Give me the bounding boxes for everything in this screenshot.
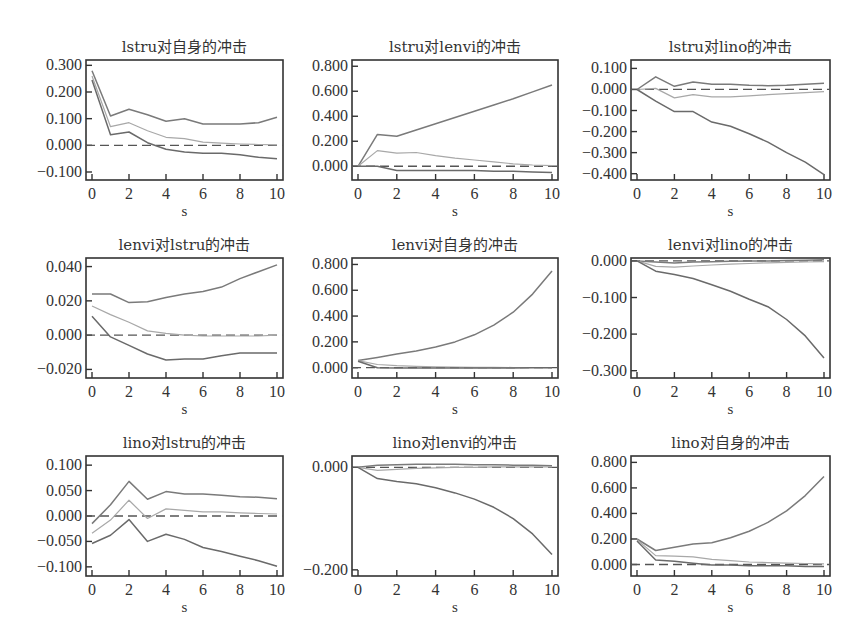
series-line-lower [358,467,552,554]
x-tick-label: 8 [783,185,791,202]
panel-title: lino对自身的冲击 [671,434,789,452]
x-tick-label: 10 [544,581,560,598]
series-line-lower [92,520,277,567]
series-line-upper [358,271,552,361]
x-tick-label: 8 [236,383,244,400]
x-tick-label: 4 [162,383,170,400]
y-tick-label: 0.600 [591,479,627,496]
y-tick-label: −0.300 [582,362,627,379]
y-tick-label: 0.600 [312,281,348,298]
series-line-irf [92,76,277,145]
x-tick-label: 10 [816,185,832,202]
x-tick-label: 8 [783,383,791,400]
y-tick-label: −0.200 [582,325,627,342]
x-tick-label: 2 [393,185,401,202]
panel-title: lenvi对自身的冲击 [392,236,519,254]
x-tick-label: 4 [432,185,440,202]
x-tick-label: 8 [509,185,517,202]
y-tick-label: 0.200 [591,530,627,547]
series-line-irf [358,361,552,368]
y-tick-label: −0.200 [582,123,627,140]
x-tick-label: 0 [88,581,96,598]
irf-panel: lenvi对lstru的冲击−0.0200.0000.0200.04002468… [37,236,285,417]
plot-frame [352,60,558,180]
y-tick-label: 0.040 [46,258,82,275]
y-tick-label: 0.000 [312,359,348,376]
x-tick-label: 8 [783,581,791,598]
x-axis-label: s [728,599,734,615]
series-line-upper [358,85,552,166]
x-tick-label: 0 [354,185,362,202]
y-tick-label: 0.200 [312,333,348,350]
panel-title: lenvi对lstru的冲击 [119,236,251,254]
y-tick-label: 0.400 [591,504,627,521]
y-tick-label: −0.100 [582,289,627,306]
y-tick-label: 0.100 [46,110,82,127]
panel-title: lstru对lenvi的冲击 [389,38,521,56]
x-tick-label: 6 [199,383,207,400]
x-tick-label: 10 [269,383,285,400]
y-tick-label: 0.300 [46,56,82,73]
y-tick-label: −0.400 [582,165,627,182]
x-tick-label: 6 [470,185,478,202]
x-tick-label: 2 [670,581,678,598]
series-line-upper [92,481,277,523]
x-tick-label: 10 [269,581,285,598]
x-tick-label: 0 [633,383,641,400]
x-tick-label: 0 [354,581,362,598]
series-line-lower [358,166,552,172]
series-line-lower [637,261,824,358]
series-line-upper [92,265,277,303]
y-tick-label: 0.000 [591,80,627,97]
irf-panel: lenvi对自身的冲击0.0000.2000.4000.6000.8000246… [312,236,560,417]
y-tick-label: −0.200 [303,561,348,578]
y-tick-label: 0.800 [312,57,348,74]
x-tick-label: 2 [393,383,401,400]
y-tick-label: 0.400 [312,307,348,324]
x-tick-label: 2 [670,383,678,400]
y-tick-label: 0.000 [46,507,82,524]
panel-title: lenvi对lino的冲击 [668,236,793,254]
x-tick-label: 6 [199,185,207,202]
x-tick-label: 6 [745,185,753,202]
plot-frame [631,258,830,378]
y-tick-label: 0.100 [591,59,627,76]
x-tick-label: 10 [816,383,832,400]
x-tick-label: 10 [544,383,560,400]
x-tick-label: 4 [162,581,170,598]
x-axis-label: s [452,599,458,615]
x-tick-label: 8 [509,581,517,598]
x-tick-label: 2 [125,383,133,400]
x-tick-label: 10 [269,185,285,202]
plot-frame [352,456,558,576]
x-tick-label: 8 [236,581,244,598]
x-axis-label: s [452,401,458,417]
plot-frame [86,258,283,378]
irf-panel: lstru对自身的冲击−0.1000.0000.1000.2000.300024… [37,38,285,219]
y-tick-label: 0.400 [312,107,348,124]
y-tick-label: −0.300 [582,144,627,161]
y-tick-label: 0.000 [591,252,627,269]
x-tick-label: 10 [544,185,560,202]
panel-title: lstru对自身的冲击 [122,38,247,56]
y-tick-label: −0.100 [582,102,627,119]
x-tick-label: 2 [125,185,133,202]
x-tick-label: 0 [633,185,641,202]
x-tick-label: 10 [816,581,832,598]
x-tick-label: 4 [162,185,170,202]
x-tick-label: 2 [670,185,678,202]
y-tick-label: −0.100 [37,163,82,180]
series-line-upper [637,476,824,550]
x-tick-label: 0 [88,383,96,400]
series-line-irf [358,151,552,167]
series-line-upper [92,71,277,124]
irf-panel: lstru对lino的冲击−0.400−0.300−0.200−0.1000.0… [582,38,832,219]
plot-frame [631,60,830,180]
x-tick-label: 2 [125,581,133,598]
series-line-lower [637,541,824,567]
x-tick-label: 0 [633,581,641,598]
irf-panel: lino对lenvi的冲击−0.2000.0000246810s [303,434,560,615]
irf-panel: lstru对lenvi的冲击0.0000.2000.4000.6000.8000… [312,38,560,219]
y-tick-label: 0.800 [312,255,348,272]
x-tick-label: 4 [708,185,716,202]
